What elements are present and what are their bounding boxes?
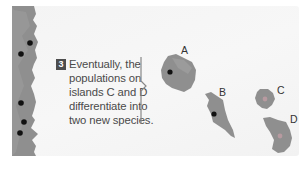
island-label-d: D [290, 113, 298, 125]
island-c-icon [254, 88, 276, 110]
mainland-icon [12, 6, 42, 156]
population-dot [17, 130, 23, 136]
caption-line-3: islands C and D [56, 85, 140, 99]
step-caption: 3Eventually, the populations on islands … [56, 57, 140, 127]
population-dot [21, 119, 27, 125]
island-label-b: B [219, 86, 226, 98]
island-a-icon [158, 52, 200, 94]
caption-line-1: 3Eventually, the [56, 57, 140, 71]
population-dot [18, 100, 24, 106]
population-dot [211, 111, 216, 116]
caption-line-5: two new species. [56, 113, 140, 127]
island-label-c: C [277, 84, 285, 96]
caption-line-4: differentiate into [56, 99, 140, 113]
population-dot [27, 40, 33, 46]
population-dot [167, 69, 172, 74]
bracket-arrow-icon [138, 55, 150, 125]
caption-line-2: populations on [56, 71, 140, 85]
population-dot [18, 51, 24, 57]
population-dot [263, 97, 268, 102]
island-label-a: A [181, 44, 188, 56]
step-number-badge: 3 [56, 59, 66, 70]
population-dot [278, 134, 283, 139]
